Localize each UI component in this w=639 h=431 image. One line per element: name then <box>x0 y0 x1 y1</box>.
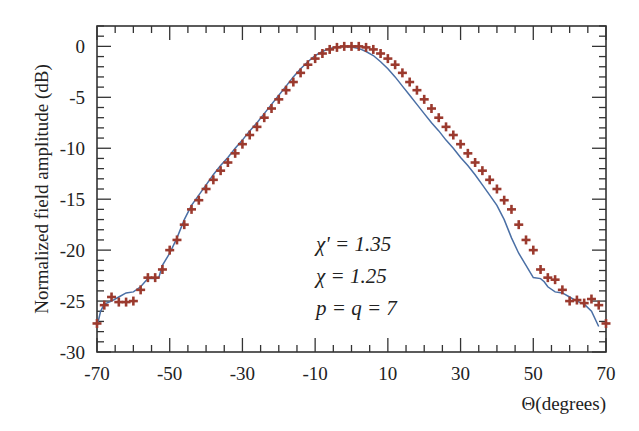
data-marker <box>216 166 225 175</box>
data-marker <box>442 122 451 131</box>
data-marker <box>485 175 494 184</box>
x-axis-label: Θ(degrees) <box>522 393 606 415</box>
data-marker <box>151 273 160 282</box>
data-marker <box>311 54 320 63</box>
data-marker <box>471 158 480 167</box>
x-tick-label: -10 <box>302 363 327 384</box>
data-marker <box>594 301 603 310</box>
data-marker <box>492 185 501 194</box>
x-tick-label: -30 <box>230 363 255 384</box>
data-marker <box>463 149 472 158</box>
y-tick-label: -10 <box>60 138 85 159</box>
data-marker <box>252 122 261 131</box>
data-marker <box>507 205 516 214</box>
data-marker <box>202 185 211 194</box>
x-tick-label: 50 <box>524 363 543 384</box>
data-marker <box>391 60 400 69</box>
data-marker <box>536 265 545 274</box>
data-marker <box>398 68 407 77</box>
annotation-p-q: p = q = 7 <box>314 296 398 320</box>
data-marker <box>158 265 167 274</box>
data-marker <box>238 140 247 149</box>
annotation-chi: χ = 1.25 <box>314 264 387 288</box>
data-marker <box>194 196 203 205</box>
data-marker <box>296 68 305 77</box>
data-marker <box>93 319 102 328</box>
data-marker <box>529 246 538 255</box>
data-marker <box>405 78 414 87</box>
data-marker <box>500 196 509 205</box>
data-marker <box>383 54 392 63</box>
data-marker <box>129 297 138 306</box>
x-tick-label: 10 <box>378 363 397 384</box>
data-marker <box>260 113 269 122</box>
data-marker <box>282 86 291 95</box>
x-tick-label: 30 <box>451 363 470 384</box>
data-marker <box>267 104 276 113</box>
data-marker <box>514 220 523 229</box>
data-marker <box>245 131 254 140</box>
data-marker <box>522 235 531 244</box>
data-marker <box>136 285 145 294</box>
y-tick-labels: 0-5-10-15-20-25-30 <box>60 36 85 363</box>
x-tick-label: -70 <box>84 363 109 384</box>
data-marker <box>231 149 240 158</box>
data-marker <box>449 131 458 140</box>
x-tick-labels: -70-50-30-1010305070 <box>84 363 615 384</box>
data-marker <box>420 95 429 104</box>
data-marker <box>209 175 218 184</box>
y-tick-label: -5 <box>69 87 85 108</box>
data-marker <box>434 113 443 122</box>
y-tick-label: -20 <box>60 240 85 261</box>
y-tick-label: 0 <box>76 36 86 57</box>
y-axis-label: Normalized field amplitude (dB) <box>31 64 53 314</box>
y-tick-label: -25 <box>60 291 85 312</box>
y-tick-label: -30 <box>60 342 85 363</box>
data-marker <box>274 95 283 104</box>
data-marker <box>478 166 487 175</box>
y-tick-label: -15 <box>60 189 85 210</box>
x-tick-label: 70 <box>597 363 616 384</box>
data-marker <box>303 60 312 69</box>
data-marker <box>289 78 298 87</box>
data-marker <box>456 140 465 149</box>
data-marker <box>602 319 611 328</box>
data-marker <box>412 86 421 95</box>
annotation-chi-prime: χ' = 1.35 <box>314 232 391 256</box>
x-tick-label: -50 <box>157 363 182 384</box>
radiation-pattern-chart: -70-50-30-1010305070 0-5-10-15-20-25-30 … <box>0 0 639 431</box>
data-marker <box>223 158 232 167</box>
data-marker <box>427 104 436 113</box>
